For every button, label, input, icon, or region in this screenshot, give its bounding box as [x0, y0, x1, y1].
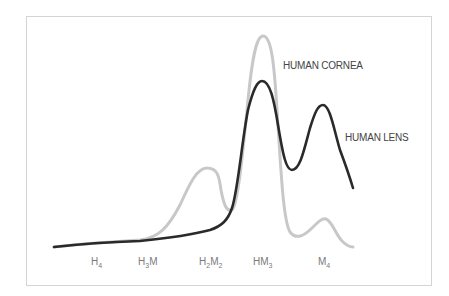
x-tick-h3m: H3M — [138, 256, 157, 267]
series-human-lens — [54, 81, 353, 247]
chart-plot — [0, 0, 449, 296]
x-tick-h4: H4 — [91, 256, 102, 267]
label-human-lens: HUMAN LENS — [345, 132, 409, 143]
x-tick-hm3: HM3 — [253, 256, 272, 267]
label-human-cornea: HUMAN CORNEA — [283, 60, 363, 71]
x-tick-m4: M4 — [318, 256, 330, 267]
x-tick-h2m2: H2M2 — [199, 256, 222, 267]
